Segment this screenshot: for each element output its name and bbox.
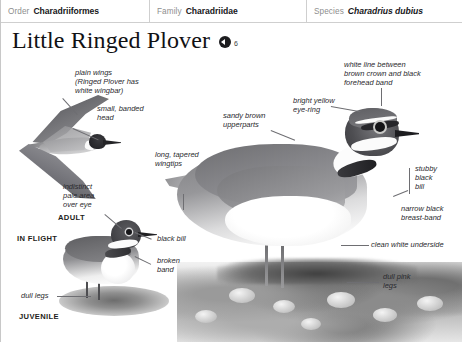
pebble [417,296,443,311]
field-guide-page: Order Charadriiformes Family Charadriida… [0,0,462,342]
taxonomy-key-order: Order [8,7,29,16]
callout-stubby-black-bill: stubby black bill [415,164,459,192]
callout-narrow-black-breast-band: narrow black breast-band [401,204,462,222]
speaker-icon[interactable] [219,36,231,48]
illustration-plate: plain wings (Ringed Plover has white win… [1,56,462,342]
callout-bright-yellow-eye-ring: bright yellow eye-ring [293,96,361,114]
callout-dull-pink-legs: dull pink legs [383,272,439,290]
stage-label-in-flight: IN FLIGHT [17,234,57,243]
taxonomy-cell-species: Species Charadrius dubius [306,0,462,23]
callout-long-tapered-wingtips: long, tapered wingtips [155,150,239,168]
taxonomy-key-species: Species [314,7,344,16]
stage-label-juvenile: JUVENILE [19,312,59,321]
callout-clean-white-underside: clean white underside [371,240,462,249]
adult-white-underside [225,196,351,246]
taxonomy-key-family: Family [157,7,182,16]
adult-eye-ring [375,122,385,132]
taxonomy-cell-family: Family Charadriidae [149,0,306,23]
stage-label-adult: ADULT [58,213,85,222]
taxonomy-value-species: Charadrius dubius [348,6,423,16]
juvenile-leg-right [98,282,100,300]
pebble [301,318,321,330]
leader-line-clean-white-underside [341,245,369,246]
callout-black-bill: black bill [157,234,211,243]
leader-line-white-line [381,88,382,106]
callout-white-line: white line between brown crown and black… [344,60,456,88]
audio-track-number: 6 [234,40,238,47]
flight-bill [103,140,121,145]
taxonomy-bar: Order Charadriiformes Family Charadriida… [1,0,462,23]
callout-small-banded-head: small, banded head [97,104,185,122]
adult-bill [395,130,419,137]
leader-line-dull-pink-legs [347,282,379,283]
pebble [195,310,217,323]
juvenile-eye [126,229,132,235]
callout-sandy-brown-upperparts: sandy brown upperparts [223,111,299,129]
juvenile-ground-shadow [59,286,169,316]
pebble [273,300,295,313]
leader-line-long-tapered-wingtips [183,194,184,210]
taxonomy-cell-order: Order Charadriiformes [1,0,149,23]
callout-indistinct-pale-area: indistinct pale area over eye [63,182,121,210]
callout-plain-wings: plain wings (Ringed Plover has white win… [75,68,179,96]
callout-broken-band: broken band [157,256,205,274]
adult-leg-right [281,242,284,288]
leader-line-stubby-black-bill [409,168,410,194]
callout-dull-legs: dull legs [21,291,67,300]
pebble [373,308,397,322]
title-row: Little Ringed Plover 6 [12,26,238,54]
taxonomy-value-family: Charadriidae [186,6,238,16]
page-title: Little Ringed Plover [12,28,210,52]
pebble [327,292,355,308]
adult-leg-left [265,240,268,286]
taxonomy-value-order: Charadriiformes [33,6,99,16]
